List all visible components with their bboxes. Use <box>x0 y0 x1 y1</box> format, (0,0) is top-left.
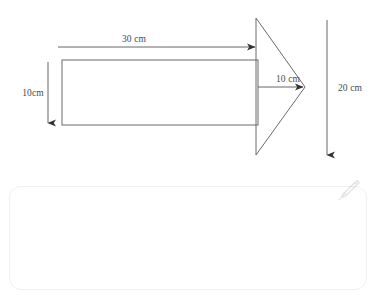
pencil-icon[interactable] <box>336 177 362 203</box>
arrow-head-triangle <box>256 18 305 155</box>
label-head-length: 10 cm <box>276 74 300 84</box>
page-canvas: 30 cm 10cm 10 cm 20 cm <box>0 0 386 306</box>
label-head-height: 20 cm <box>338 83 362 93</box>
label-shaft-height: 10cm <box>22 88 44 98</box>
label-shaft-length: 30 cm <box>122 34 146 44</box>
answer-input-area[interactable] <box>9 186 367 290</box>
arrow-shaft-rectangle <box>62 60 258 125</box>
